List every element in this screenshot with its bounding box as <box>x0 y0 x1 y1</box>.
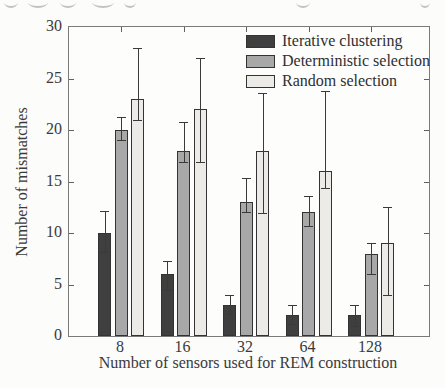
y-tick-label-5: 5 <box>26 275 62 293</box>
error-bar-iterative-clustering-32-cap-bottom <box>225 314 234 315</box>
error-bar-random-selection-8-cap-bottom <box>133 120 142 121</box>
figure-scan: Iterative clusteringDeterministic select… <box>0 0 445 388</box>
y-tick-label-30: 30 <box>26 17 62 35</box>
error-bar-deterministic-selection-32-cap-bottom <box>242 212 251 213</box>
legend-swatch-3 <box>246 75 275 88</box>
legend-swatch-1 <box>246 35 275 48</box>
legend-label: Random selection <box>282 73 397 89</box>
x-tick-top <box>371 27 372 32</box>
x-tick-top <box>246 27 247 32</box>
error-bar-iterative-clustering-8-cap-top <box>100 211 109 212</box>
error-bar-deterministic-selection-32-cap-top <box>242 178 251 179</box>
bar-random-selection-64 <box>319 171 332 336</box>
error-bar-iterative-clustering-64-cap-bottom <box>288 324 297 325</box>
error-bar-deterministic-selection-128-cap-bottom <box>367 274 376 275</box>
legend-label: Deterministic selection <box>282 53 430 69</box>
error-bar-random-selection-16-cap-top <box>196 58 205 59</box>
x-tick-label-8: 8 <box>98 338 142 356</box>
y-tick-label-10: 10 <box>26 223 62 241</box>
y-tick-label-15: 15 <box>26 172 62 190</box>
error-bar-random-selection-16 <box>200 58 201 162</box>
x-tick-label-16: 16 <box>161 338 205 356</box>
error-bar-deterministic-selection-64-cap-top <box>304 196 313 197</box>
error-bar-random-selection-128 <box>388 207 389 295</box>
error-bar-deterministic-selection-8-cap-bottom <box>117 140 126 141</box>
legend-row: Iterative clustering <box>246 33 430 49</box>
error-bar-iterative-clustering-32 <box>230 295 231 314</box>
legend-swatch-2 <box>246 55 275 68</box>
y-tick-label-25: 25 <box>26 69 62 87</box>
y-tick-left <box>69 130 74 131</box>
y-tick-left <box>69 182 74 183</box>
error-bar-deterministic-selection-64-cap-bottom <box>304 226 313 227</box>
legend: Iterative clusteringDeterministic select… <box>246 33 430 89</box>
error-bar-iterative-clustering-16 <box>167 261 168 290</box>
plot-area: Iterative clusteringDeterministic select… <box>68 26 430 337</box>
y-tick-right <box>424 285 429 286</box>
x-tick-label-128: 128 <box>348 338 392 356</box>
x-tick-label-64: 64 <box>286 338 330 356</box>
cropped-text-remnants <box>0 0 445 8</box>
error-bar-random-selection-64 <box>325 91 326 188</box>
bar-deterministic-selection-16 <box>177 151 190 336</box>
y-tick-right <box>424 79 429 80</box>
error-bar-iterative-clustering-16-cap-top <box>163 261 172 262</box>
error-bar-deterministic-selection-32 <box>246 178 247 212</box>
legend-row: Random selection <box>246 73 430 89</box>
error-bar-iterative-clustering-64-cap-top <box>288 305 297 306</box>
error-bar-iterative-clustering-64 <box>292 305 293 324</box>
error-bar-random-selection-32-cap-bottom <box>258 213 267 214</box>
error-bar-deterministic-selection-16-cap-bottom <box>179 162 188 163</box>
y-tick-left <box>69 79 74 80</box>
error-bar-deterministic-selection-128-cap-top <box>367 243 376 244</box>
y-tick-label-20: 20 <box>26 120 62 138</box>
x-tick-top <box>309 27 310 32</box>
error-bar-deterministic-selection-8 <box>121 117 122 140</box>
error-bar-random-selection-64-cap-top <box>321 91 330 92</box>
x-tick-label-32: 32 <box>223 338 267 356</box>
error-bar-deterministic-selection-8-cap-top <box>117 117 126 118</box>
y-tick-left <box>69 285 74 286</box>
y-tick-label-0: 0 <box>26 326 62 344</box>
x-axis-title: Number of sensors used for REM construct… <box>68 354 428 372</box>
error-bar-iterative-clustering-32-cap-top <box>225 295 234 296</box>
error-bar-iterative-clustering-128 <box>355 305 356 326</box>
bar-deterministic-selection-32 <box>240 202 253 336</box>
error-bar-deterministic-selection-64 <box>309 196 310 226</box>
x-tick-top <box>184 27 185 32</box>
error-bar-iterative-clustering-128-cap-bottom <box>350 326 359 327</box>
bar-deterministic-selection-8 <box>115 130 128 336</box>
legend-label: Iterative clustering <box>282 33 402 49</box>
error-bar-iterative-clustering-8 <box>105 211 106 252</box>
error-bar-deterministic-selection-128 <box>371 243 372 274</box>
error-bar-iterative-clustering-8-cap-bottom <box>100 252 109 253</box>
y-tick-right <box>424 130 429 131</box>
legend-row: Deterministic selection <box>246 53 430 69</box>
error-bar-random-selection-64-cap-bottom <box>321 188 330 189</box>
y-tick-right <box>424 233 429 234</box>
error-bar-iterative-clustering-16-cap-bottom <box>163 290 172 291</box>
error-bar-random-selection-128-cap-top <box>383 207 392 208</box>
error-bar-random-selection-8 <box>138 48 139 120</box>
error-bar-random-selection-16-cap-bottom <box>196 162 205 163</box>
error-bar-deterministic-selection-16 <box>184 122 185 162</box>
error-bar-random-selection-32-cap-top <box>258 93 267 94</box>
y-tick-right <box>424 182 429 183</box>
y-tick-left <box>69 233 74 234</box>
bar-deterministic-selection-64 <box>302 212 315 336</box>
bar-random-selection-8 <box>131 99 144 336</box>
error-bar-random-selection-128-cap-bottom <box>383 295 392 296</box>
error-bar-random-selection-32 <box>263 93 264 213</box>
error-bar-random-selection-8-cap-top <box>133 48 142 49</box>
error-bar-iterative-clustering-128-cap-top <box>350 305 359 306</box>
error-bar-deterministic-selection-16-cap-top <box>179 122 188 123</box>
x-tick-top <box>121 27 122 32</box>
